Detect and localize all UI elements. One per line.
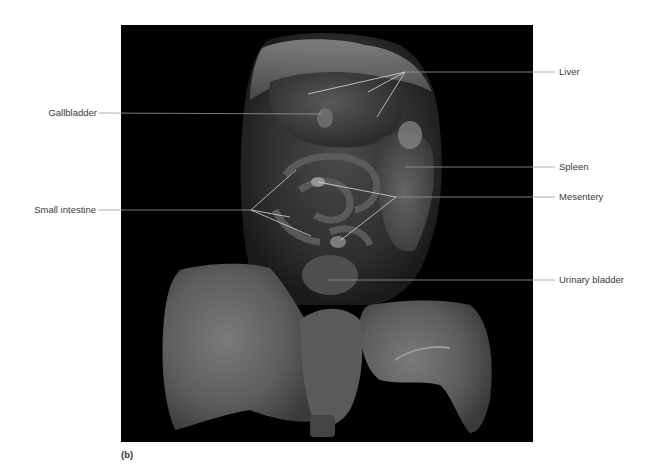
gallbladder-shape: [317, 108, 333, 128]
label-small-intestine: Small intestine: [34, 204, 96, 216]
urinary-bladder-shape: [302, 255, 358, 295]
label-urinary-bladder: Urinary bladder: [559, 274, 624, 286]
kidney-highlight: [398, 121, 422, 149]
label-spleen: Spleen: [559, 161, 589, 173]
label-mesentery: Mesentery: [559, 191, 603, 203]
anatomy-photo: [121, 25, 533, 442]
tail-base: [310, 415, 335, 437]
label-liver: Liver: [559, 66, 580, 78]
anatomy-figure: [0, 0, 647, 475]
panel-label: (b): [121, 449, 133, 460]
label-gallbladder: Gallbladder: [48, 107, 97, 119]
